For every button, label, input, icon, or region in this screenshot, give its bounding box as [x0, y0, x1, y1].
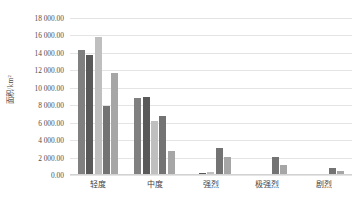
y-tick-label: 12 000.00 — [2, 66, 64, 75]
y-tick-label: 2 000.00 — [2, 153, 64, 162]
bar — [151, 121, 158, 175]
y-tick-label: 18 000.00 — [2, 14, 64, 23]
bar-group — [296, 18, 352, 175]
y-tick-label: 0.00 — [2, 171, 64, 180]
plot-area: 轻度中度强烈极强烈剧烈 — [70, 18, 352, 175]
bar — [143, 97, 150, 176]
gridline — [70, 175, 352, 176]
bar — [78, 50, 85, 175]
y-tick-label: 14 000.00 — [2, 48, 64, 57]
x-category-label: 剧烈 — [284, 178, 360, 189]
y-tick-label: 4 000.00 — [2, 136, 64, 145]
y-tick-label: 6 000.00 — [2, 118, 64, 127]
bar — [111, 73, 118, 175]
bar — [216, 148, 223, 175]
x-axis-line — [70, 174, 352, 175]
bar-group — [70, 18, 126, 175]
bar-chart: 面积/km² 0.002 000.004 000.006 000.008 000… — [0, 0, 360, 209]
bar — [95, 37, 102, 175]
bar-group — [183, 18, 239, 175]
bar — [86, 55, 93, 175]
y-tick-label: 16 000.00 — [2, 31, 64, 40]
y-axis-tick-labels: 0.002 000.004 000.006 000.008 000.0010 0… — [2, 18, 64, 175]
bar-group — [126, 18, 182, 175]
bar — [159, 116, 166, 175]
y-tick-label: 10 000.00 — [2, 83, 64, 92]
bar-group — [239, 18, 295, 175]
bar — [103, 106, 110, 175]
bar — [272, 157, 279, 175]
bar — [224, 157, 231, 175]
bar — [168, 151, 175, 175]
y-tick-label: 8 000.00 — [2, 101, 64, 110]
bar — [134, 98, 141, 175]
